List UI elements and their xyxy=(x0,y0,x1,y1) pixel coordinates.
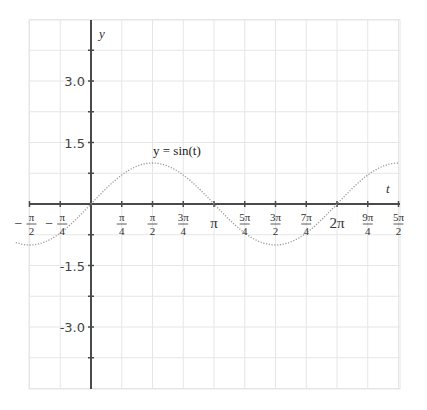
svg-text:4: 4 xyxy=(304,225,310,237)
x-tick-label: π4 xyxy=(117,211,127,237)
svg-text:5π: 5π xyxy=(239,211,251,223)
svg-text:π: π xyxy=(119,211,125,223)
svg-text:π: π xyxy=(150,211,156,223)
svg-text:2: 2 xyxy=(273,225,279,237)
x-tick-label: −π2 xyxy=(15,211,37,237)
y-tick-label: 3.0 xyxy=(64,74,85,89)
svg-text:2: 2 xyxy=(29,225,35,237)
x-tick-label: 2π xyxy=(329,215,345,231)
svg-text:3π: 3π xyxy=(178,211,190,223)
x-tick-label: −π4 xyxy=(45,211,67,237)
svg-text:2: 2 xyxy=(150,225,156,237)
sine-plot: −π2−π4π4π23π4π5π43π27π42π9π45π2 3.01.5-1… xyxy=(0,0,427,410)
x-axis-title: t xyxy=(386,181,390,196)
svg-text:4: 4 xyxy=(119,225,125,237)
svg-text:4: 4 xyxy=(242,225,248,237)
svg-text:5π: 5π xyxy=(393,211,405,223)
svg-text:4: 4 xyxy=(181,225,187,237)
svg-text:9π: 9π xyxy=(362,211,374,223)
svg-text:3π: 3π xyxy=(270,211,282,223)
svg-text:π: π xyxy=(210,215,218,231)
y-axis-title: y xyxy=(97,26,105,41)
x-tick-labels: −π2−π4π4π23π4π5π43π27π42π9π45π2 xyxy=(15,211,405,237)
svg-text:2: 2 xyxy=(396,225,402,237)
x-tick-label: π2 xyxy=(148,211,158,237)
svg-text:4: 4 xyxy=(365,225,371,237)
svg-text:π: π xyxy=(59,211,65,223)
svg-text:7π: 7π xyxy=(301,211,313,223)
x-tick-label: 9π4 xyxy=(362,211,374,237)
svg-text:π: π xyxy=(29,211,35,223)
y-tick-label: -3.0 xyxy=(60,320,85,335)
x-tick-label: 5π2 xyxy=(393,211,405,237)
x-tick-label: 3π4 xyxy=(178,211,190,237)
y-tick-label: 1.5 xyxy=(64,136,85,151)
svg-text:−: − xyxy=(45,216,53,231)
x-tick-label: 7π4 xyxy=(301,211,313,237)
svg-text:2π: 2π xyxy=(329,215,345,231)
function-label: y = sin(t) xyxy=(153,143,201,158)
x-tick-label: 5π4 xyxy=(239,211,251,237)
x-tick-label: 3π2 xyxy=(270,211,282,237)
y-tick-label: -1.5 xyxy=(60,259,85,274)
x-tick-label: π xyxy=(210,215,218,231)
svg-text:−: − xyxy=(15,216,23,231)
svg-text:4: 4 xyxy=(59,225,65,237)
